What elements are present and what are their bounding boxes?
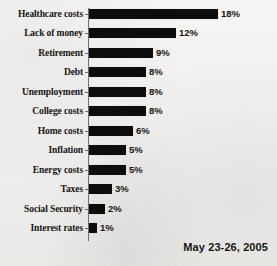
bar-row: Social Security 2% <box>0 200 277 218</box>
category-label: Healthcare costs <box>0 5 83 23</box>
category-label: Debt <box>0 63 83 81</box>
category-label: Social Security <box>0 200 83 218</box>
bar-row: Inflation 5% <box>0 141 277 159</box>
value-label: 8% <box>149 64 163 80</box>
horizontal-bar-chart: Healthcare costs 18% Lack of money 12% R… <box>0 0 277 266</box>
axis-tick <box>85 92 88 93</box>
bar <box>89 28 176 38</box>
axis-tick <box>85 53 88 54</box>
bar <box>89 184 112 194</box>
value-label: 18% <box>221 6 240 22</box>
category-label: Interest rates <box>0 219 83 237</box>
axis-tick <box>85 209 88 210</box>
bar-row: Taxes 3% <box>0 180 277 198</box>
axis-tick <box>85 170 88 171</box>
category-label: Unemployment <box>0 83 83 101</box>
value-label: 9% <box>156 45 170 61</box>
value-label: 12% <box>179 25 198 41</box>
axis-tick <box>85 189 88 190</box>
axis-tick <box>85 14 88 15</box>
bar-row: College costs 8% <box>0 102 277 120</box>
bar-row: Lack of money 12% <box>0 24 277 42</box>
bar <box>89 106 146 116</box>
category-label: Inflation <box>0 141 83 159</box>
bar <box>89 87 146 97</box>
axis-tick <box>85 150 88 151</box>
bar <box>89 223 97 233</box>
value-label: 8% <box>149 84 163 100</box>
category-label: Retirement <box>0 44 83 62</box>
bar <box>89 145 126 155</box>
category-label: Lack of money <box>0 24 83 42</box>
axis-tick <box>85 131 88 132</box>
bar <box>89 126 133 136</box>
bar-row: Home costs 6% <box>0 122 277 140</box>
value-label: 8% <box>149 103 163 119</box>
value-label: 6% <box>136 123 150 139</box>
value-label: 5% <box>129 162 143 178</box>
bar-row: Energy costs 5% <box>0 161 277 179</box>
bar-row: Healthcare costs 18% <box>0 5 277 23</box>
date-stamp: May 23-26, 2005 <box>183 241 268 253</box>
value-label: 3% <box>115 181 129 197</box>
axis-tick <box>85 33 88 34</box>
bar-row: Debt 8% <box>0 63 277 81</box>
bar <box>89 9 218 19</box>
category-label: Home costs <box>0 122 83 140</box>
category-label: Taxes <box>0 180 83 198</box>
axis-tick <box>85 111 88 112</box>
bar <box>89 165 126 175</box>
bar <box>89 204 105 214</box>
axis-tick <box>85 72 88 73</box>
value-label: 2% <box>108 201 122 217</box>
value-label: 1% <box>100 220 114 236</box>
bar-row: Unemployment 8% <box>0 83 277 101</box>
axis-tick <box>85 228 88 229</box>
category-label: College costs <box>0 102 83 120</box>
value-label: 5% <box>129 142 143 158</box>
bar <box>89 67 146 77</box>
category-label: Energy costs <box>0 161 83 179</box>
bar-row: Interest rates 1% <box>0 219 277 237</box>
bar <box>89 48 153 58</box>
bar-row: Retirement 9% <box>0 44 277 62</box>
